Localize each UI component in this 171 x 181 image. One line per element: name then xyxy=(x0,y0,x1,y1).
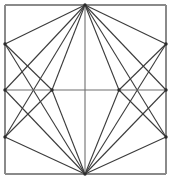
node-top-apex xyxy=(83,3,86,6)
node-left-mid-vertex xyxy=(3,88,6,91)
node-right-upper-vertex xyxy=(164,42,167,45)
node-bottom-apex xyxy=(83,172,86,175)
node-right-mid-vertex xyxy=(164,88,167,91)
node-left-lower-vertex xyxy=(3,135,6,138)
line-figure-svg xyxy=(0,0,171,181)
node-right-lower-vertex xyxy=(164,135,167,138)
figure-canvas xyxy=(0,0,171,181)
node-inner-right-node xyxy=(117,88,120,91)
node-left-upper-vertex xyxy=(3,42,6,45)
node-inner-left-node xyxy=(50,88,53,91)
